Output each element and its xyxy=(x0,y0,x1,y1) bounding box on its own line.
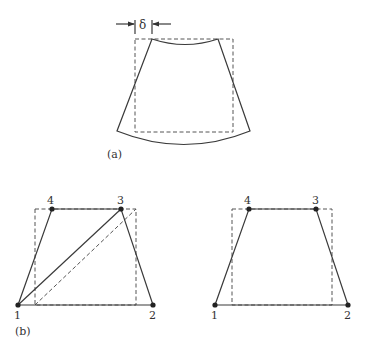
delta-dimension: δ xyxy=(116,18,171,34)
node-2-left xyxy=(150,302,155,307)
original-rectangle-b-right xyxy=(232,209,332,305)
arrow-left-icon xyxy=(152,22,159,27)
arrow-right-icon xyxy=(128,22,135,27)
panel-b-right: 1 2 3 4 xyxy=(211,194,351,322)
node-label-1-left: 1 xyxy=(14,309,21,322)
node-label-1-right: 1 xyxy=(211,309,218,322)
node-4-left xyxy=(49,206,54,211)
figure-canvas: δ (a) 1 2 3 4 (b) 1 2 xyxy=(0,0,370,344)
element-quad-b-left xyxy=(18,209,153,305)
node-label-3-right: 3 xyxy=(312,194,319,207)
node-label-4-right: 4 xyxy=(244,194,251,207)
node-label-2-left: 2 xyxy=(149,309,156,322)
node-label-4-left: 4 xyxy=(47,194,54,207)
node-label-3-left: 3 xyxy=(117,194,124,207)
panel-b-left: 1 2 3 4 (b) xyxy=(14,194,156,338)
node-1-right xyxy=(212,302,217,307)
element-diagonal xyxy=(18,209,121,305)
original-rectangle-a xyxy=(135,39,233,132)
original-diagonal xyxy=(35,209,136,305)
delta-label: δ xyxy=(139,18,146,32)
node-2-right xyxy=(345,302,350,307)
node-label-2-right: 2 xyxy=(344,309,351,322)
panel-a: δ (a) xyxy=(107,18,250,161)
node-1-left xyxy=(15,302,20,307)
node-4-right xyxy=(246,206,251,211)
panel-b-label: (b) xyxy=(15,325,31,338)
node-3-right xyxy=(313,206,318,211)
element-quad-b-right xyxy=(215,209,348,305)
node-3-left xyxy=(118,206,123,211)
deformed-shape-a xyxy=(117,39,250,145)
panel-a-label: (a) xyxy=(107,148,122,161)
